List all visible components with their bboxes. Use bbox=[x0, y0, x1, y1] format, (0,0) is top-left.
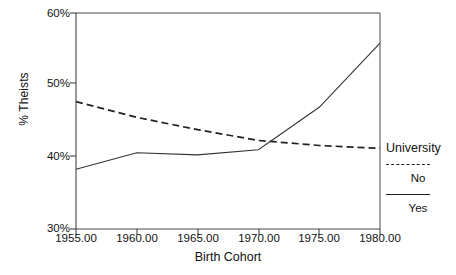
legend-entry-yes[interactable]: Yes bbox=[386, 190, 456, 215]
x-tick-label: 1980.00 bbox=[340, 233, 420, 245]
legend-swatch-dashed-icon bbox=[386, 160, 430, 169]
legend-swatch-solid-icon bbox=[386, 190, 430, 199]
legend-entry-no[interactable]: No bbox=[386, 160, 456, 185]
chart-container: % Theists 60% 50% 40% 30% 1955.00 1960.0… bbox=[0, 0, 456, 275]
chart-legend: University No Yes bbox=[386, 141, 456, 215]
series-line-no bbox=[76, 102, 380, 149]
x-axis-title: Birth Cohort bbox=[76, 250, 380, 264]
legend-label-yes: Yes bbox=[386, 201, 442, 215]
series-line-yes bbox=[76, 43, 380, 169]
legend-label-no: No bbox=[386, 171, 442, 185]
legend-title: University bbox=[386, 141, 456, 155]
